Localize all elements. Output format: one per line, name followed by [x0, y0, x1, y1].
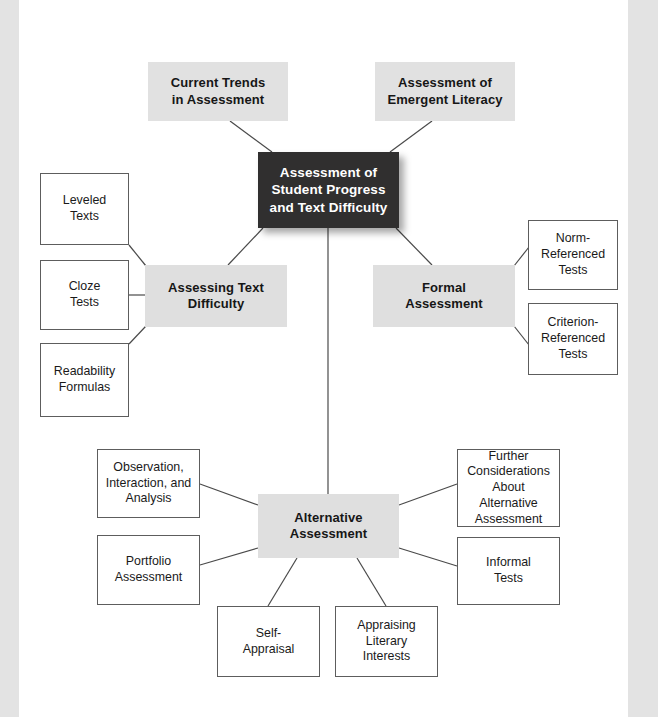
diagram-canvas: Assessment ofStudent Progressand Text Di… — [0, 0, 658, 717]
node-leveled-texts: LeveledTexts — [40, 173, 129, 245]
node-label-observation-interaction-analysis: Observation,Interaction, andAnalysis — [102, 460, 195, 507]
node-label-current-trends: Current Trendsin Assessment — [167, 75, 270, 108]
node-assessing-text-difficulty: Assessing TextDifficulty — [145, 265, 287, 327]
node-label-norm-referenced-tests: Norm-ReferencedTests — [537, 231, 609, 278]
node-self-appraisal: Self-Appraisal — [217, 606, 320, 677]
node-emergent-literacy: Assessment ofEmergent Literacy — [375, 62, 515, 121]
node-label-readability-formulas: ReadabilityFormulas — [50, 364, 119, 396]
node-norm-referenced-tests: Norm-ReferencedTests — [528, 220, 618, 290]
node-root: Assessment ofStudent Progressand Text Di… — [258, 152, 399, 228]
node-cloze-tests: ClozeTests — [40, 260, 129, 330]
node-label-appraising-literary-interests: AppraisingLiteraryInterests — [353, 618, 420, 665]
node-formal-assessment: FormalAssessment — [373, 265, 515, 327]
node-label-further-considerations: FurtherConsiderationsAbout AlternativeAs… — [458, 449, 559, 528]
node-observation-interaction-analysis: Observation,Interaction, andAnalysis — [97, 449, 200, 518]
node-alternative-assessment: AlternativeAssessment — [258, 494, 399, 558]
node-criterion-referenced-tests: Criterion-ReferencedTests — [528, 303, 618, 375]
node-readability-formulas: ReadabilityFormulas — [40, 343, 129, 417]
node-portfolio-assessment: PortfolioAssessment — [97, 535, 200, 605]
page-edge-right — [628, 0, 658, 717]
node-label-alternative-assessment: AlternativeAssessment — [286, 510, 372, 543]
node-informal-tests: InformalTests — [457, 537, 560, 605]
page-edge-left — [0, 0, 19, 717]
node-further-considerations: FurtherConsiderationsAbout AlternativeAs… — [457, 449, 560, 527]
node-label-assessing-text-difficulty: Assessing TextDifficulty — [164, 280, 268, 313]
node-label-leveled-texts: LeveledTexts — [59, 193, 110, 225]
node-label-criterion-referenced-tests: Criterion-ReferencedTests — [537, 315, 609, 362]
node-label-root: Assessment ofStudent Progressand Text Di… — [266, 164, 392, 215]
node-label-formal-assessment: FormalAssessment — [401, 280, 487, 313]
node-label-emergent-literacy: Assessment ofEmergent Literacy — [383, 75, 506, 108]
node-current-trends: Current Trendsin Assessment — [148, 62, 288, 121]
node-label-informal-tests: InformalTests — [482, 555, 535, 587]
node-label-portfolio-assessment: PortfolioAssessment — [111, 554, 186, 586]
node-appraising-literary-interests: AppraisingLiteraryInterests — [335, 606, 438, 677]
node-label-self-appraisal: Self-Appraisal — [239, 626, 299, 658]
node-label-cloze-tests: ClozeTests — [65, 279, 105, 311]
